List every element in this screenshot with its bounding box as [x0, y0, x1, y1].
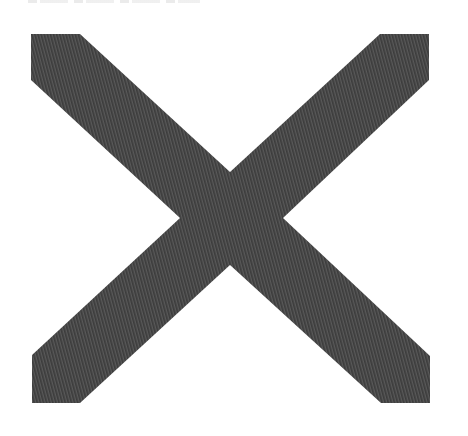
x-shape [31, 34, 430, 403]
x-mark-icon [0, 0, 468, 436]
